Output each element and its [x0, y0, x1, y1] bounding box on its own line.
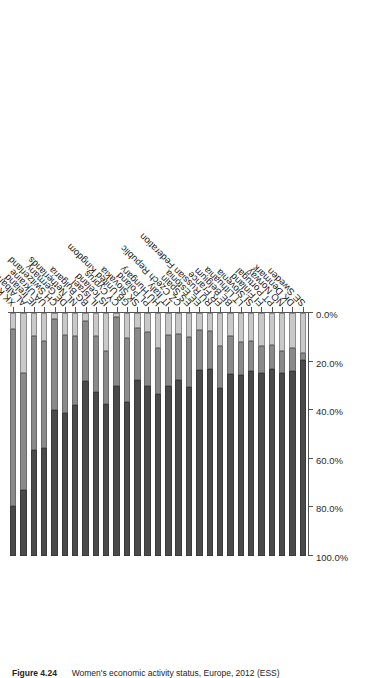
- bar-segment: [300, 313, 306, 353]
- bar-segment: [144, 386, 150, 556]
- bar-segment: [113, 386, 119, 556]
- value-axis-line: [308, 313, 309, 556]
- bar-row: [93, 313, 99, 556]
- category-tick: [127, 307, 128, 312]
- bar-segment: [289, 313, 295, 348]
- category-tick: [13, 307, 14, 312]
- bar-segment: [113, 313, 119, 317]
- value-tick-label: 60.0%: [316, 455, 343, 466]
- category-tick: [148, 307, 149, 312]
- category-tick: [117, 307, 118, 312]
- bar-segment: [144, 332, 150, 385]
- bar-row: [144, 313, 150, 556]
- bar-segment: [165, 335, 171, 386]
- category-tick: [282, 307, 283, 312]
- category-tick: [137, 307, 138, 312]
- bar-segment: [155, 394, 161, 556]
- bar-segment: [82, 322, 88, 382]
- bar-row: [62, 313, 68, 556]
- category-tick: [44, 307, 45, 312]
- bar-segment: [300, 360, 306, 556]
- bar-segment: [248, 341, 254, 371]
- bar-segment: [258, 313, 264, 346]
- bar-segment: [124, 313, 130, 339]
- bar-segment: [155, 348, 161, 394]
- bar-segment: [207, 313, 213, 331]
- bar-segment: [165, 386, 171, 556]
- bar-segment: [124, 339, 130, 402]
- bar-row: [217, 313, 223, 556]
- bar-segment: [82, 381, 88, 556]
- bar-segment: [279, 351, 285, 373]
- bar-row: [227, 313, 233, 556]
- bar-segment: [124, 402, 130, 556]
- bar-row: [207, 313, 213, 556]
- bar-row: [165, 313, 171, 556]
- value-tick-label: 80.0%: [316, 503, 343, 514]
- bar-segment: [31, 336, 37, 450]
- category-tick: [168, 307, 169, 312]
- bar-segment: [196, 370, 202, 556]
- bar-row: [51, 313, 57, 556]
- bar-segment: [238, 313, 244, 342]
- bar-segment: [165, 313, 171, 335]
- bar-segment: [217, 346, 223, 389]
- bar-row: [196, 313, 202, 556]
- bar-row: [31, 313, 37, 556]
- bar-row: [279, 313, 285, 556]
- bar-row: [248, 313, 254, 556]
- bar-segment: [248, 313, 254, 341]
- figure-caption-text: Women's economic activity status, Europe…: [72, 668, 280, 678]
- bar-segment: [186, 387, 192, 556]
- bar-segment: [186, 337, 192, 387]
- bar-segment: [41, 341, 47, 448]
- bar-segment: [238, 375, 244, 556]
- category-axis-line: [8, 312, 309, 313]
- category-tick: [251, 307, 252, 312]
- category-tick: [230, 307, 231, 312]
- bar-segment: [41, 448, 47, 556]
- bar-segment: [93, 313, 99, 336]
- bar-segment: [207, 331, 213, 369]
- category-tick: [24, 307, 25, 312]
- bar-segment: [103, 313, 109, 351]
- bar-segment: [279, 313, 285, 351]
- bar-segment: [217, 388, 223, 556]
- bar-segment: [62, 335, 68, 413]
- bar-row: [20, 313, 26, 556]
- bar-segment: [227, 336, 233, 374]
- bar-row: [72, 313, 78, 556]
- bar-segment: [238, 342, 244, 375]
- bar-segment: [20, 313, 26, 373]
- bar-segment: [134, 328, 140, 380]
- bar-segment: [289, 371, 295, 556]
- category-tick: [34, 307, 35, 312]
- bar-row: [269, 313, 275, 556]
- bar-segment: [20, 490, 26, 556]
- value-tick: [308, 555, 313, 556]
- bar-segment: [175, 380, 181, 556]
- category-tick: [199, 307, 200, 312]
- bar-row: [41, 313, 47, 556]
- bar-segment: [10, 313, 16, 329]
- bar-segment: [20, 373, 26, 491]
- bar-row: [103, 313, 109, 556]
- bar-segment: [51, 410, 57, 556]
- bar-row: [300, 313, 306, 556]
- category-tick: [220, 307, 221, 312]
- category-tick: [86, 307, 87, 312]
- bar-segment: [258, 373, 264, 556]
- bar-segment: [103, 404, 109, 556]
- bar-segment: [72, 313, 78, 336]
- bar-segment: [10, 329, 16, 506]
- bar-segment: [134, 313, 140, 328]
- bar-segment: [269, 313, 275, 345]
- bar-segment: [196, 313, 202, 330]
- bar-segment: [31, 450, 37, 556]
- bar-segment: [51, 319, 57, 410]
- bar-segment: [175, 334, 181, 380]
- bar-row: [82, 313, 88, 556]
- value-tick: [308, 312, 313, 313]
- bar-segment: [248, 371, 254, 556]
